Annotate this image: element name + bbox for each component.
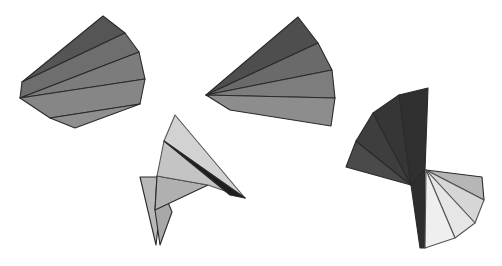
geometric-figure (0, 0, 502, 266)
facet-polygon (206, 95, 335, 126)
fan-shape-top-left (20, 16, 145, 128)
folded-shape-bottom-center (140, 115, 245, 245)
fan-shape-right (346, 88, 484, 248)
figure-canvas (0, 0, 502, 266)
fan-shape-top-middle (206, 17, 335, 126)
